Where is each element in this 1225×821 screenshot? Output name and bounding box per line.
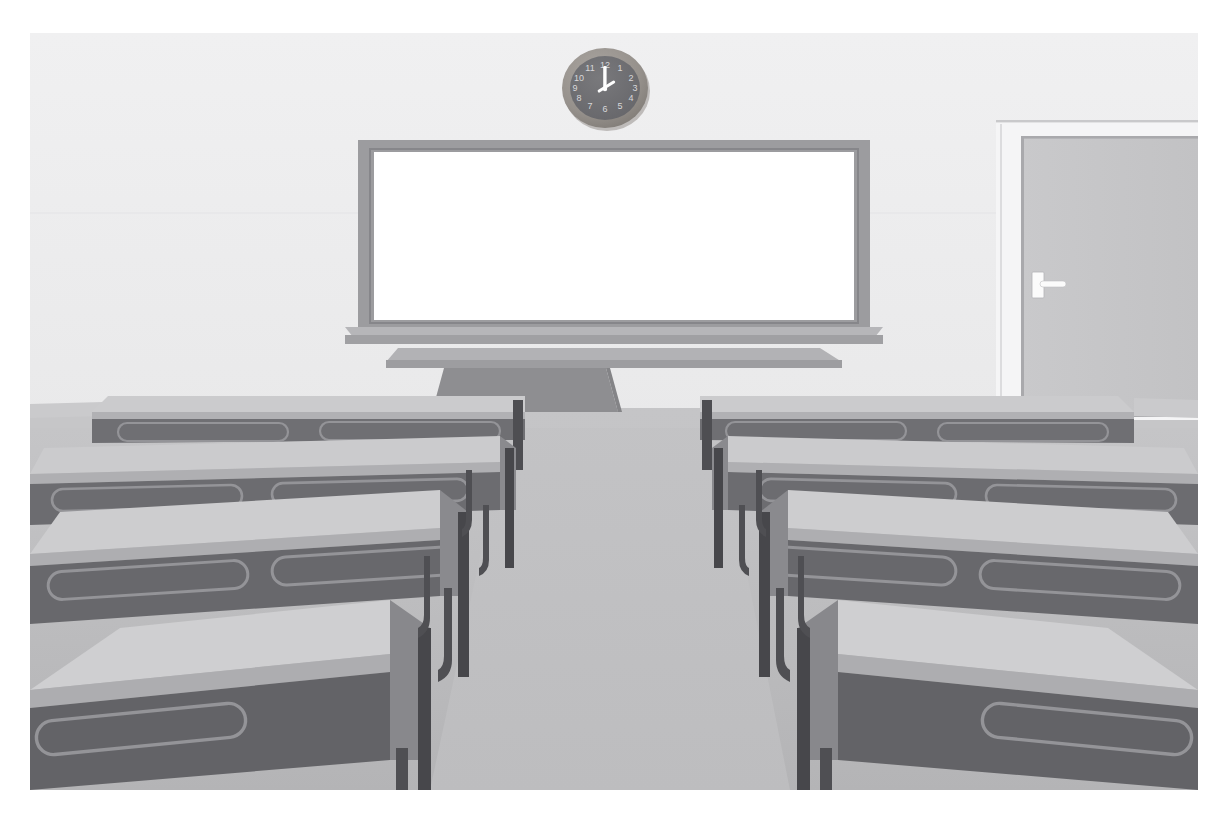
desk-leg-inner (702, 400, 712, 470)
whiteboard-ledge-front (345, 335, 883, 344)
desk-leg-back (418, 628, 431, 790)
desk-top-edge (92, 412, 525, 419)
classroom-scene-svg: 12 1 2 3 4 5 6 7 8 9 10 11 (0, 0, 1225, 821)
desk-leg-back (505, 448, 514, 568)
desk-leg-back (458, 512, 469, 677)
desk-leg-front (396, 748, 408, 790)
podium-desktop (386, 348, 842, 362)
door-frame-header-line (996, 120, 1200, 122)
clock-numeral-2: 2 (628, 73, 633, 83)
desk-top-edge (700, 412, 1134, 419)
clock-numeral-3: 3 (632, 83, 637, 93)
desk-leg-back (714, 448, 723, 568)
door-panel-edge-top (1021, 136, 1200, 139)
clock-numeral-1: 1 (617, 63, 622, 73)
clock-numeral-11: 11 (585, 63, 594, 73)
clock-numeral-5: 5 (617, 101, 622, 111)
clock-numeral-9: 9 (572, 83, 577, 93)
desk-right-back-outer (1134, 398, 1198, 418)
door-handle-lever[interactable] (1040, 281, 1066, 287)
classroom-door[interactable] (996, 120, 1200, 420)
whiteboard (345, 140, 883, 344)
desk-leg-front (820, 748, 832, 790)
clock-numeral-4: 4 (628, 93, 633, 103)
door-frame-jamb-line (1000, 124, 1002, 420)
table-row (1134, 398, 1198, 418)
classroom-illustration: 12 1 2 3 4 5 6 7 8 9 10 11 (0, 0, 1225, 821)
clock-numeral-8: 8 (576, 93, 581, 103)
podium-desktop-edge (386, 360, 842, 368)
clock-center-pin (603, 87, 607, 91)
clock-numeral-6: 6 (602, 104, 607, 114)
door-panel[interactable] (1021, 136, 1200, 417)
door-panel-edge-left (1021, 136, 1024, 417)
whiteboard-surface (374, 152, 854, 320)
clock-numeral-7: 7 (587, 101, 592, 111)
clock-numeral-10: 10 (574, 73, 584, 83)
desk-leg-back (797, 628, 810, 790)
desk-top (700, 396, 1134, 412)
desk-top (92, 396, 525, 412)
desk-leg-back (759, 512, 770, 677)
